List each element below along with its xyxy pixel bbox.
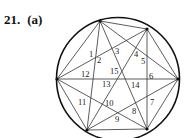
vertex-A — [98, 19, 101, 22]
region-label-12: 12 — [81, 69, 90, 79]
region-label-5: 5 — [141, 56, 145, 66]
region-label-9: 9 — [115, 114, 119, 124]
region-label-15: 15 — [110, 66, 119, 76]
region-label-14: 14 — [131, 80, 140, 90]
region-label-2: 2 — [97, 55, 101, 65]
region-label-7: 7 — [150, 97, 154, 107]
vertex-F — [55, 77, 58, 80]
vertex-B — [145, 27, 148, 30]
region-label-3: 3 — [115, 46, 119, 56]
region-label-1: 1 — [89, 49, 93, 59]
region-label-10: 10 — [105, 98, 114, 108]
chord-AD — [100, 21, 147, 129]
region-label-4: 4 — [134, 49, 139, 59]
vertex-C — [176, 77, 179, 80]
region-label-6: 6 — [149, 71, 153, 81]
vertex-D — [145, 127, 148, 130]
region-label-8: 8 — [132, 106, 136, 116]
region-label-13: 13 — [102, 79, 111, 89]
circle-chord-diagram: 123456789101112131415 — [0, 0, 186, 138]
chord-DE — [87, 129, 147, 130]
region-label-11: 11 — [78, 97, 86, 107]
vertex-E — [85, 128, 88, 131]
